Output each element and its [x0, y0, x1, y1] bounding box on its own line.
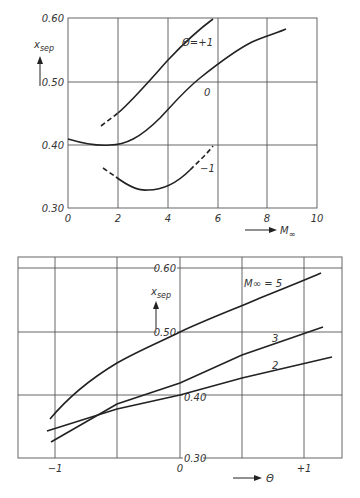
top-ytick-060: 0.60	[42, 13, 64, 24]
bottom-label-m2: 2	[272, 360, 278, 371]
top-xtick-4: 4	[165, 213, 171, 224]
top-curve-zero	[68, 29, 286, 145]
bottom-gridlines	[18, 257, 342, 458]
top-xtick-6: 6	[215, 213, 221, 224]
top-xtick-0: 0	[65, 213, 71, 224]
bottom-label-m3: 3	[272, 333, 278, 344]
top-curve-plus1	[118, 19, 213, 113]
top-label-minus1: −1	[200, 163, 215, 174]
bottom-chart: 0.60 0.50 0.40 0.30 −1 0 +1 xsep Θ M∞ = …	[18, 257, 342, 484]
bottom-curve-m3	[51, 327, 323, 442]
top-ylabel: xsep	[33, 39, 54, 53]
top-ytick-050: 0.50	[42, 77, 64, 88]
top-xtick-8: 8	[264, 213, 270, 224]
top-ytick-030: 0.30	[42, 203, 64, 214]
bottom-ylabel-arrow-icon	[153, 301, 159, 329]
top-xlabel: M∞	[280, 225, 295, 239]
top-xlabel-arrow-icon	[245, 227, 277, 233]
bottom-xlabel: Θ	[266, 473, 274, 484]
top-curve-minus1-dashed-start	[103, 168, 116, 177]
bottom-xtick-plus1: +1	[297, 463, 312, 474]
top-chart: 0.60 0.50 0.40 0.30 0 2 4 6 8 10 xsep M∞…	[33, 13, 323, 239]
bottom-ytick-060: 0.60	[154, 263, 176, 274]
bottom-xtick-minus1: −1	[48, 463, 63, 474]
bottom-ylabel: xsep	[150, 286, 171, 300]
top-label-zero: 0	[204, 87, 210, 98]
top-xtick-10: 10	[311, 213, 324, 224]
bottom-xtick-0: 0	[177, 463, 183, 474]
bottom-label-m5: M∞ = 5	[244, 278, 282, 289]
top-curve-minus1	[116, 170, 190, 190]
figure: 0.60 0.50 0.40 0.30 0 2 4 6 8 10 xsep M∞…	[0, 0, 360, 498]
bottom-ytick-030: 0.30	[184, 453, 206, 464]
top-ytick-040: 0.40	[42, 140, 64, 151]
top-curve-plus1-dashed	[101, 113, 118, 126]
bottom-xlabel-arrow-icon	[233, 475, 262, 481]
top-xtick-2: 2	[115, 213, 121, 224]
top-label-plus1: Θ=+1	[182, 37, 213, 48]
